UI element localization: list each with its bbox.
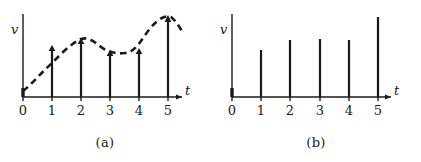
tick-label-2-b: 2 [286,103,294,118]
impulse-bars-a [23,15,171,97]
tick-label-3-b: 3 [316,103,324,118]
dashed-envelope-curve-a [23,16,183,91]
panel-a-caption: (a) [0,135,210,150]
panel-a-plot: v t 0 1 2 3 4 5 [0,0,210,130]
impulse-bars-b [232,17,378,97]
tick-label-0-b: 0 [228,103,236,118]
panel-b: v t 0 1 2 3 4 5 [211,0,421,162]
tick-label-2-a: 2 [77,103,85,118]
panel-b-plot: v t 0 1 2 3 4 5 [211,0,421,130]
tick-label-5-b: 5 [374,103,382,118]
x-axis-arrowhead-b [385,94,391,99]
x-axis-label-a: t [185,83,191,98]
x-tick-labels-a: 0 1 2 3 4 5 [19,103,172,118]
x-axis-arrowhead-a [176,94,182,99]
y-axis-label-b: v [220,22,228,37]
tick-label-3-a: 3 [106,103,114,118]
impulse-arrowhead-4-a [136,48,143,54]
impulse-arrowhead-1-a [49,45,56,51]
y-axis-label-a: v [11,22,19,37]
tick-label-1-b: 1 [257,103,265,118]
tick-label-4-b: 4 [345,103,353,118]
x-tick-labels-b: 0 1 2 3 4 5 [228,103,382,118]
tick-label-5-a: 5 [164,103,172,118]
tick-label-1-a: 1 [48,103,56,118]
x-axis-label-b: t [394,83,400,98]
panel-a: v t 0 1 2 3 4 5 [0,0,210,162]
tick-label-4-a: 4 [135,103,143,118]
figure-root: v t 0 1 2 3 4 5 [0,0,421,162]
tick-label-0-a: 0 [19,103,27,118]
panel-b-caption: (b) [211,135,421,150]
